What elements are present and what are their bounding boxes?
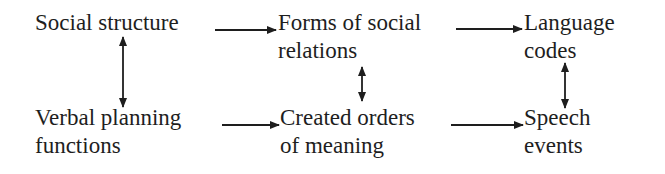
node-label-line1: Verbal planning bbox=[35, 104, 181, 132]
node-label-line1: Created orders bbox=[280, 104, 415, 132]
node-social-structure: Social structure bbox=[35, 9, 179, 37]
node-label-line2: of meaning bbox=[280, 132, 415, 160]
node-label-line1: Speech bbox=[524, 104, 590, 132]
node-label-line2: events bbox=[524, 132, 590, 160]
node-label-line2: relations bbox=[278, 37, 421, 65]
node-label-line1: Social structure bbox=[35, 9, 179, 37]
node-label-line1: Forms of social bbox=[278, 9, 421, 37]
node-speech-events: Speech events bbox=[524, 104, 590, 160]
node-language-codes: Language codes bbox=[524, 9, 615, 65]
node-forms-of-social-relations: Forms of social relations bbox=[278, 9, 421, 65]
node-label-line1: Language bbox=[524, 9, 615, 37]
node-label-line2: functions bbox=[35, 132, 181, 160]
node-label-line2: codes bbox=[524, 37, 615, 65]
node-created-orders-of-meaning: Created orders of meaning bbox=[280, 104, 415, 160]
node-verbal-planning-functions: Verbal planning functions bbox=[35, 104, 181, 160]
